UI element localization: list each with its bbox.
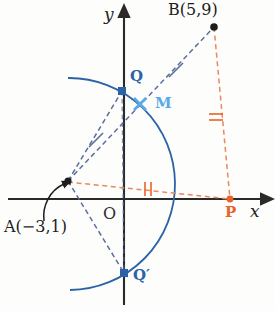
tick-mark-b-p <box>209 114 223 120</box>
point-m-marker[interactable] <box>134 98 146 110</box>
point-qprime-marker[interactable] <box>120 269 128 277</box>
point-m-label: M <box>155 96 172 111</box>
segment-b-to-p <box>214 27 230 199</box>
origin-label: O <box>103 206 116 222</box>
point-b-label: B(5,9) <box>168 2 218 18</box>
geometry-svg <box>0 0 275 311</box>
axis-group <box>8 16 262 305</box>
point-a-marker[interactable] <box>64 177 71 184</box>
point-qprime-label: Q′ <box>133 268 150 283</box>
diagram-canvas: y x O A(−3,1) B(5,9) M P Q Q′ <box>0 0 275 311</box>
segment-a-to-q <box>68 91 122 181</box>
point-p-marker[interactable] <box>227 196 234 203</box>
segment-a-to-qprime <box>68 181 124 273</box>
segment-a-to-p <box>68 182 230 199</box>
tick-mark-a-p <box>145 182 151 196</box>
x-axis-label: x <box>250 203 260 220</box>
tick-mark-m-b <box>169 63 183 77</box>
blue-dashed-segments <box>68 27 214 273</box>
point-a-label: A(−3,1) <box>4 219 67 235</box>
orange-dashed-segments <box>68 27 230 199</box>
point-p-label: P <box>225 205 236 220</box>
point-b-marker[interactable] <box>210 23 218 31</box>
y-axis-label: y <box>104 6 114 23</box>
point-q-marker[interactable] <box>118 87 126 95</box>
point-q-label: Q <box>130 69 143 84</box>
arrow-to-a-icon <box>44 184 64 221</box>
